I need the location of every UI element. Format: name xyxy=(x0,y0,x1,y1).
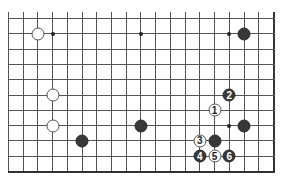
white-stone-move-5: 5 xyxy=(208,150,221,163)
grid-vertical-line xyxy=(67,12,68,172)
grid-vertical-line xyxy=(273,12,275,172)
grid-vertical-line xyxy=(8,12,9,172)
grid-horizontal-line xyxy=(8,110,275,111)
grid-vertical-line xyxy=(96,12,97,172)
star-point-icon xyxy=(139,32,143,36)
grid-horizontal-line xyxy=(8,64,275,65)
grid-vertical-line xyxy=(185,12,186,172)
black-stone xyxy=(208,134,221,147)
white-stone xyxy=(31,27,44,40)
star-point-icon xyxy=(51,32,55,36)
star-point-icon xyxy=(227,32,231,36)
grid-vertical-line xyxy=(258,12,259,172)
white-stone-move-1: 1 xyxy=(208,104,221,117)
grid-vertical-line xyxy=(111,12,112,172)
black-stone-move-2: 2 xyxy=(223,89,236,102)
grid-vertical-line xyxy=(126,12,127,172)
grid-vertical-line xyxy=(82,12,83,172)
grid-horizontal-line xyxy=(8,18,275,19)
star-point-icon xyxy=(227,124,231,128)
white-stone xyxy=(46,119,59,132)
grid-horizontal-line xyxy=(8,140,275,141)
white-stone xyxy=(46,89,59,102)
go-board-diagram: 123456 xyxy=(0,0,281,182)
grid-vertical-line xyxy=(214,12,215,172)
black-stone xyxy=(238,119,251,132)
grid-vertical-line xyxy=(140,12,141,172)
grid-horizontal-line xyxy=(8,79,275,80)
grid-vertical-line xyxy=(170,12,171,172)
black-stone-move-4: 4 xyxy=(193,150,206,163)
grid-vertical-line xyxy=(23,12,24,172)
grid-horizontal-line xyxy=(8,49,275,50)
black-stone xyxy=(134,119,147,132)
black-stone xyxy=(238,27,251,40)
black-stone xyxy=(76,134,89,147)
white-stone-move-3: 3 xyxy=(193,134,206,147)
black-stone-move-6: 6 xyxy=(223,150,236,163)
grid-horizontal-line xyxy=(8,171,275,173)
grid-vertical-line xyxy=(155,12,156,172)
grid-vertical-line xyxy=(199,12,200,172)
